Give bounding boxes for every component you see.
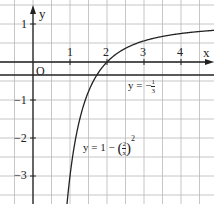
grid-lines [0, 0, 214, 204]
y-tick-label-minus-2: −2 [14, 132, 27, 144]
x-tick-label-4: 4 [177, 46, 183, 58]
y-axis-label: y [39, 7, 46, 20]
asymptote-label: y = −13 [128, 78, 155, 95]
fraction-numerator: 1 [151, 78, 155, 87]
exponent: 2 [131, 134, 135, 143]
y-tick-label-1: 1 [21, 18, 27, 30]
y-tick-label-minus-1: −1 [14, 94, 27, 106]
x-tick-label-1: 1 [67, 46, 73, 58]
asymptote-label-prefix: y = − [128, 79, 151, 91]
origin-label: O [36, 65, 45, 77]
curve-label-prefix: y = 1 − [83, 141, 117, 153]
x-axis-label: x [203, 46, 210, 59]
y-axis-arrow-icon [30, 5, 36, 14]
y-tick-label-minus-3: −3 [14, 169, 27, 181]
curve-label: y = 1 − (2x)2 [83, 135, 135, 157]
fraction-denominator: 3 [151, 87, 155, 95]
asymptote-label-fraction: 13 [151, 78, 155, 95]
x-tick-label-3: 3 [140, 46, 146, 58]
function-plot [0, 0, 214, 204]
x-tick-label-2: 2 [103, 46, 109, 58]
